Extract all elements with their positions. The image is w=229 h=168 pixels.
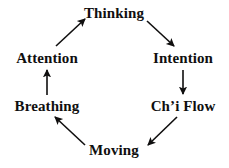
node-chi-flow: Ch’i Flow <box>151 99 216 114</box>
node-thinking: Thinking <box>84 6 144 21</box>
cycle-diagram: Thinking Intention Ch’i Flow Moving Brea… <box>0 0 229 168</box>
edge-moving-to-breathing <box>55 117 85 145</box>
edge-attention-to-thinking <box>56 19 85 46</box>
edge-chiflow-to-moving <box>148 117 177 145</box>
edge-thinking-to-intention <box>147 21 174 46</box>
node-attention: Attention <box>16 51 78 66</box>
node-breathing: Breathing <box>15 99 80 114</box>
node-intention: Intention <box>153 51 213 66</box>
node-moving: Moving <box>89 143 139 158</box>
